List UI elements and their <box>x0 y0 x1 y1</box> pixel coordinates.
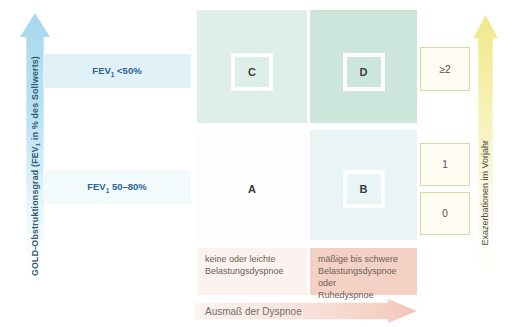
fev-50-80-suffix: 50–80% <box>109 181 147 192</box>
exacerbation-box-ge2-value: ≥2 <box>439 64 450 75</box>
quadrant-c-inner-square: C <box>231 53 273 91</box>
obstruction-axis-label-prefix: GOLD-Obstruktionsgrad (FEV <box>30 146 40 276</box>
dyspnea-axis-label: Ausmaß der Dyspnoe <box>205 299 302 323</box>
fev-lt50-text: FEV1 <50% <box>92 65 141 78</box>
quadrant-b-cell: B <box>310 130 417 240</box>
quadrant-d-cell: D <box>310 10 417 123</box>
quadrant-c-cell: C <box>197 10 307 123</box>
obstruction-axis-label-sub: 1 <box>34 143 40 147</box>
dyspnea-label-severe: mäßige bis schwere Belastungsdyspnoe ode… <box>310 248 417 295</box>
dyspnea-label-mild: keine oder leichte Belastungsdyspnoe <box>197 248 307 295</box>
exacerbation-box-0-value: 0 <box>442 208 448 219</box>
fev-50-80-text: FEV1 50–80% <box>87 181 147 194</box>
fev-lt50-row-label: FEV1 <50% <box>43 54 191 88</box>
fev-50-80-prefix: FEV <box>87 181 105 192</box>
quadrant-d-inner-square: D <box>343 53 385 91</box>
exacerbation-axis-label-text: Exazerbationen im Vorjahr <box>480 140 490 246</box>
obstruction-axis-label-text: GOLD-Obstruktionsgrad (FEV1 in % des Sol… <box>30 56 41 276</box>
obstruction-axis-label-suffix: in % des Sollwerts) <box>30 56 40 143</box>
quadrant-c-letter: C <box>248 66 256 78</box>
quadrant-b-letter: B <box>360 183 368 195</box>
fev-lt50-suffix: <50% <box>114 65 141 76</box>
quadrant-a-inner-square: A <box>231 170 273 208</box>
dyspnea-axis-label-text: Ausmaß der Dyspnoe <box>205 306 302 317</box>
exacerbation-box-1-value: 1 <box>442 159 448 170</box>
quadrant-a-cell: A <box>197 130 307 240</box>
quadrant-d-letter: D <box>360 66 368 78</box>
quadrant-a-letter: A <box>248 183 256 195</box>
fev-lt50-prefix: FEV <box>92 65 110 76</box>
fev-50-80-row-label: FEV1 50–80% <box>43 170 191 204</box>
gold-abcd-diagram: GOLD-Obstruktionsgrad (FEV1 in % des Sol… <box>0 0 513 327</box>
quadrant-b-inner-square: B <box>343 170 385 208</box>
exacerbation-axis-label: Exazerbationen im Vorjahr <box>462 95 508 290</box>
exacerbation-box-ge2: ≥2 <box>420 47 470 91</box>
